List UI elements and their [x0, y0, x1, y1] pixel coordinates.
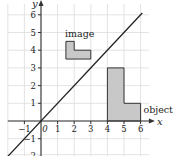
y-tick-label: −1 [23, 134, 36, 144]
x-tick-label: 6 [138, 124, 143, 134]
y-axis-label: y [31, 0, 38, 9]
y-tick-label: 4 [31, 45, 36, 55]
y-tick-label: −2 [23, 151, 36, 156]
x-tick-label: 5 [121, 124, 126, 134]
x-axis-arrow-icon [149, 119, 155, 124]
image-shape [66, 41, 91, 59]
shapes [66, 41, 141, 121]
y-tick-label: 5 [31, 28, 36, 38]
object-shape [107, 68, 140, 121]
y-tick-label: 6 [31, 10, 36, 20]
x-axis-label: x [157, 116, 163, 127]
coordinate-plane: −10123456−2−1123456xyimageobject [0, 0, 174, 156]
x-tick-label: 0 [42, 124, 48, 134]
y-tick-label: 3 [31, 63, 36, 73]
x-tick-label: 3 [88, 124, 93, 134]
x-tick-label: 4 [105, 124, 110, 134]
y-tick-label: 2 [31, 81, 36, 91]
x-tick-label: 1 [55, 124, 60, 134]
image-label: image [65, 28, 95, 39]
reflection-diagram: −10123456−2−1123456xyimageobject [0, 0, 174, 156]
object-label: object [143, 104, 173, 115]
y-tick-label: 1 [31, 98, 36, 108]
x-tick-label: 2 [71, 124, 76, 134]
x-tick-label: −1 [18, 124, 31, 134]
y-axis-arrow-icon [39, 0, 44, 6]
